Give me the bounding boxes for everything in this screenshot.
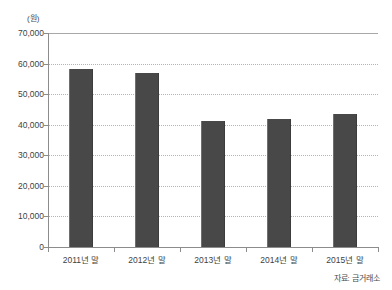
bar-slot <box>114 33 180 247</box>
y-axis-tick-label: 70,000 <box>18 28 44 38</box>
x-axis-tick-mark <box>180 247 181 252</box>
y-axis-tick-labels: 70,00060,00050,00040,00030,00020,00010,0… <box>0 0 44 290</box>
bar <box>201 121 225 247</box>
y-axis-tick-label: 20,000 <box>18 181 44 191</box>
bar-series <box>48 33 378 247</box>
x-axis-tick-label: 2013년 말 <box>194 253 231 265</box>
bar <box>135 73 159 247</box>
x-axis-tick-label: 2014년 말 <box>260 253 297 265</box>
bar-slot <box>180 33 246 247</box>
gridline <box>48 247 378 248</box>
x-axis-tick-labels: 2011년 말2012년 말2013년 말2014년 말2015년 말 <box>48 253 378 267</box>
y-axis-tick-label: 10,000 <box>18 211 44 221</box>
x-axis-tick-mark <box>378 247 379 252</box>
x-axis-tick-mark <box>246 247 247 252</box>
y-axis-tick-label: 60,000 <box>18 59 44 69</box>
bar <box>69 69 93 247</box>
bar-slot <box>48 33 114 247</box>
x-axis-tick-mark <box>48 247 49 252</box>
x-axis-tick-mark <box>114 247 115 252</box>
bar <box>267 119 291 247</box>
y-axis-tick-label: 50,000 <box>18 89 44 99</box>
x-axis-tick-mark <box>312 247 313 252</box>
bar-chart: (원) 70,00060,00050,00040,00030,00020,000… <box>0 0 392 290</box>
y-axis-tick-label: 40,000 <box>18 120 44 130</box>
bar-slot <box>246 33 312 247</box>
x-axis-tick-label: 2012년 말 <box>128 253 165 265</box>
source-note: 자료: 금거래소 <box>334 272 380 283</box>
y-axis-tick-label: 30,000 <box>18 150 44 160</box>
bar-slot <box>312 33 378 247</box>
x-axis-tick-label: 2015년 말 <box>326 253 363 265</box>
x-axis-tick-label: 2011년 말 <box>63 253 100 265</box>
bar <box>333 114 357 247</box>
